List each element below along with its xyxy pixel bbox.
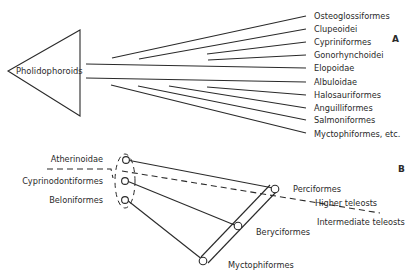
phylogeny-diagram: A Pholidophoroids Osteoglossiformes Clup… [0, 0, 414, 272]
taxon-label: Osteoglossiformes [314, 11, 390, 21]
lineage-line [112, 16, 306, 58]
lineage-line [207, 87, 306, 95]
node-myctophiformes [199, 257, 207, 265]
node-beryciformes [234, 222, 242, 230]
node-label-myctophiformes: Myctophiformes [228, 260, 294, 270]
node-label-perciformes: Perciformes [293, 184, 341, 194]
node-perciformes [271, 185, 279, 193]
lineage-line [138, 86, 306, 120]
taxon-label: Gonorhynchoidei [314, 50, 383, 60]
branch-beloniformes-myctophiformes [127, 200, 203, 260]
taxon-label: Clupeoidei [314, 24, 357, 34]
taxon-label: Salmoniformes [314, 115, 375, 125]
panel-a: A Pholidophoroids Osteoglossiformes Clup… [8, 11, 400, 139]
taxon-label: Elopoidae [314, 63, 354, 73]
taxon-label-beloniformes: Beloniformes [49, 195, 103, 205]
grade-label-intermediate: Intermediate teleosts [317, 217, 405, 227]
radiating-lineages [86, 16, 306, 133]
node-beloniformes [122, 197, 129, 204]
branch-cyprinodontiformes-beryciformes [127, 181, 237, 226]
taxon-label-cyprinodontiformes: Cyprinodontiformes [22, 176, 103, 186]
root-label-pholidophoroids: Pholidophoroids [16, 66, 83, 76]
grade-label-higher: Higher teleosts [315, 198, 377, 208]
lineage-line [86, 78, 306, 82]
taxon-label-atherinoidae: Atherinoidae [51, 154, 103, 164]
taxon-label: Cypriniformes [314, 37, 371, 47]
taxon-label: Albuloidae [314, 77, 357, 87]
trunk-left-rail [201, 185, 270, 257]
taxon-label: Anguilliformes [314, 103, 373, 113]
lineage-line [86, 64, 306, 68]
lineage-line [139, 29, 306, 59]
taxon-label: Myctophiformes, etc. [314, 129, 400, 139]
panel-b-label: B [398, 164, 405, 174]
lineage-line [208, 55, 306, 60]
taxon-label: Halosauriformes [314, 90, 381, 100]
taxa-list-a: Osteoglossiformes Clupeoidei Cypriniform… [314, 11, 400, 139]
node-cyprinodontiformes [122, 178, 129, 185]
node-label-beryciformes: Beryciformes [256, 227, 310, 237]
panel-b: B Atherinoidae Cyprinodontiformes Beloni… [22, 154, 405, 270]
branch-atherinoidae-perciformes [127, 160, 273, 188]
panel-a-label: A [392, 34, 399, 44]
node-atherinoidae [123, 157, 130, 164]
